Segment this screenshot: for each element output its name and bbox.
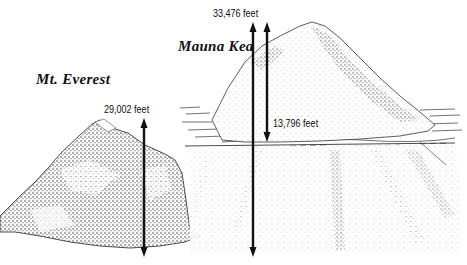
mauna-kea-total-height-label: 33,476 feet [213,7,258,19]
mauna-kea-title: Mauna Kea [178,38,254,55]
everest-title: Mt. Everest [36,71,110,88]
everest-height-label: 29,002 feet [104,103,149,115]
mauna-kea-above-sea-label: 13,796 feet [273,117,318,129]
everest-mountain [0,119,200,248]
mountain-comparison-diagram: Mt. Everest Mauna Kea 29,002 feet 33,476… [0,0,467,265]
mauna-kea-below-sea [188,142,462,252]
